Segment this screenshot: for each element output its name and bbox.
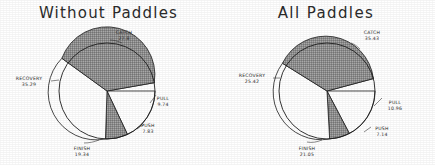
slice-label-pull: PULL	[157, 96, 169, 101]
slice-value-recovery: 25.42	[245, 79, 259, 84]
slice-value-catch: 35.43	[365, 36, 379, 41]
slice-label-finish: FINISH	[299, 146, 316, 151]
leader-line-push	[364, 127, 371, 132]
slice-value-pull: 10.96	[388, 106, 402, 111]
slice-label-recovery: RECOVERY	[16, 76, 43, 81]
slice-label-recovery: RECOVERY	[239, 73, 266, 78]
pie-svg-all-paddles: CATCH 35.43 PULL 10.96 PUSH 7.14 FINISH …	[217, 0, 435, 165]
slice-value-recovery: 35.29	[22, 82, 36, 87]
slice-value-catch: 27.8	[118, 36, 129, 41]
leader-line-finish	[84, 140, 99, 143]
leader-line-finish	[307, 140, 322, 142]
leader-line-pull	[374, 98, 382, 106]
slice-value-finish: 19.34	[75, 152, 89, 157]
slice-value-push: 7.14	[376, 132, 387, 137]
chart-panel-without-paddles: Without Paddles CATCH	[0, 0, 217, 165]
slice-value-finish: 21.05	[300, 152, 314, 157]
chart-panel-all-paddles: All Paddles CATCH	[217, 0, 435, 165]
slice-label-finish: FINISH	[74, 146, 91, 151]
slice-value-pull: 9.74	[157, 102, 168, 107]
slice-label-push: PUSH	[375, 126, 389, 131]
slice-label-catch: CATCH	[116, 30, 132, 35]
slice-value-push: 7.83	[142, 129, 153, 134]
slice-label-push: PUSH	[141, 123, 155, 128]
pie-chart-figure: Without Paddles CATCH	[0, 0, 435, 165]
pie-svg-without-paddles: CATCH 27.8 PULL 9.74 PUSH 7.83 FINISH 19…	[0, 0, 217, 165]
slice-label-pull: PULL	[389, 100, 401, 105]
slice-label-catch: CATCH	[364, 30, 380, 35]
